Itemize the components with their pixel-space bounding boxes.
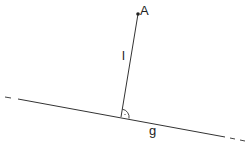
line-g-right-dash-1 bbox=[230, 138, 235, 139]
right-angle-arc bbox=[122, 109, 129, 118]
label-a: A bbox=[140, 3, 149, 18]
label-l: l bbox=[122, 48, 125, 63]
label-g: g bbox=[149, 123, 156, 138]
line-g-right-dash-2 bbox=[240, 140, 245, 141]
right-angle-dot bbox=[124, 114, 125, 115]
line-g bbox=[18, 99, 225, 137]
segment-l bbox=[121, 14, 138, 117]
line-g-left-dash bbox=[5, 97, 11, 98]
perpendicular-diagram: A l g bbox=[0, 0, 250, 145]
